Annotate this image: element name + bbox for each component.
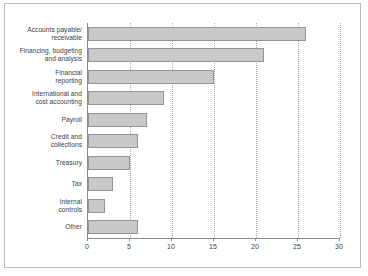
category-label: Internal controls <box>9 195 85 217</box>
bar[interactable] <box>88 177 113 191</box>
bar[interactable] <box>88 70 214 84</box>
bar-row <box>88 109 340 131</box>
tick-mark <box>213 238 214 241</box>
bar-row <box>88 195 340 217</box>
gridline <box>340 23 341 238</box>
category-label: Treasury <box>9 152 85 174</box>
category-label: Payroll <box>9 109 85 131</box>
tick-mark <box>255 238 256 241</box>
category-label: International and cost accounting <box>9 88 85 110</box>
bar[interactable] <box>88 220 138 234</box>
category-label: Financing, budgeting and analysis <box>9 45 85 67</box>
bar-row <box>88 88 340 110</box>
bar-row <box>88 23 340 45</box>
chart-frame: Accounts payable/ receivable Financing, … <box>4 3 361 268</box>
bar-row <box>88 152 340 174</box>
bar-row <box>88 66 340 88</box>
tick-label: 25 <box>293 243 301 250</box>
x-axis-tick-labels: 051015202530 <box>87 243 339 255</box>
bar[interactable] <box>88 91 164 105</box>
tick-mark <box>87 238 88 241</box>
category-label: Financial reporting <box>9 66 85 88</box>
bar-chart: Accounts payable/ receivable Financing, … <box>5 4 362 269</box>
bar-row <box>88 45 340 67</box>
tick-mark <box>297 238 298 241</box>
tick-label: 0 <box>85 243 89 250</box>
category-label: Other <box>9 217 85 239</box>
tick-label: 5 <box>127 243 131 250</box>
tick-label: 30 <box>335 243 343 250</box>
tick-label: 20 <box>251 243 259 250</box>
bar-row <box>88 131 340 153</box>
bar[interactable] <box>88 48 264 62</box>
tick-mark <box>171 238 172 241</box>
tick-mark <box>339 238 340 241</box>
tick-label: 15 <box>209 243 217 250</box>
category-label: Credit and collections <box>9 131 85 153</box>
category-axis-labels: Accounts payable/ receivable Financing, … <box>9 23 85 238</box>
tick-mark <box>129 238 130 241</box>
bar[interactable] <box>88 134 138 148</box>
bar[interactable] <box>88 199 105 213</box>
tick-label: 10 <box>167 243 175 250</box>
category-label: Accounts payable/ receivable <box>9 23 85 45</box>
bar[interactable] <box>88 156 130 170</box>
bar-row <box>88 217 340 239</box>
category-label: Tax <box>9 174 85 196</box>
x-axis-ticks <box>87 238 339 242</box>
plot-area <box>87 23 340 238</box>
bar-row <box>88 174 340 196</box>
bar[interactable] <box>88 113 147 127</box>
bar-series <box>88 23 340 238</box>
bar[interactable] <box>88 27 306 41</box>
